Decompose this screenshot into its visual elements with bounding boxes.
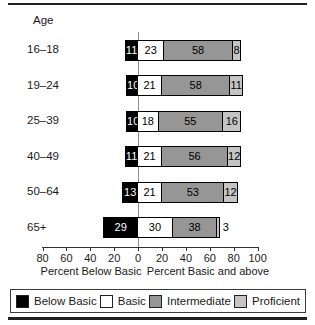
- bar-segment-below-basic: 11: [125, 146, 138, 167]
- bar-segment-proficient: 16: [222, 111, 241, 132]
- bar-segment-proficient: 8: [232, 40, 242, 61]
- axis-tick: [210, 247, 211, 251]
- legend-swatch-intermediate: [149, 295, 162, 308]
- bar-segment-basic: 18: [137, 111, 159, 132]
- category-label-50-64: 50–64: [27, 185, 69, 197]
- bar-segment-proficient: 12: [223, 182, 237, 203]
- axis-tick-label: 100: [243, 252, 273, 264]
- bar-segment-intermediate: 53: [161, 182, 224, 203]
- bar-segment-intermediate: 56: [161, 146, 228, 167]
- legend-item-below-basic: Below Basic: [16, 295, 97, 308]
- bar-segment-proficient: 12: [227, 146, 241, 167]
- bar-segment-value-outside: 3: [223, 217, 229, 238]
- zero-axis-line: [138, 32, 139, 247]
- category-label-40-49: 40–49: [27, 150, 69, 162]
- legend-item-intermediate: Intermediate: [149, 295, 231, 308]
- axis-title-left: Percent Below Basic: [36, 265, 146, 277]
- axis-tick: [114, 247, 115, 251]
- axis-tick: [258, 247, 259, 251]
- bar-segment-below-basic: 13: [122, 182, 138, 203]
- legend-swatch-basic: [100, 295, 113, 308]
- legend-label-intermediate: Intermediate: [167, 295, 231, 307]
- legend-swatch-below-basic: [16, 295, 29, 308]
- bar-segment-basic: 21: [137, 75, 162, 96]
- category-label-19-24: 19–24: [27, 79, 69, 91]
- category-label-16-18: 16–18: [27, 43, 69, 55]
- top-rule: [8, 3, 307, 5]
- bar-segment-basic: 23: [137, 40, 164, 61]
- bar-segment-intermediate: 58: [161, 75, 230, 96]
- legend-label-below-basic: Below Basic: [34, 295, 97, 307]
- bar-segment-basic: 21: [137, 146, 162, 167]
- x-axis-line: [42, 247, 258, 248]
- legend-swatch-proficient: [234, 295, 247, 308]
- bar-segment-intermediate: 38: [172, 217, 217, 238]
- axis-tick: [66, 247, 67, 251]
- bottom-rule: [8, 317, 307, 320]
- axis-tick: [138, 247, 139, 251]
- axis-tick: [43, 247, 44, 251]
- axis-tick: [90, 247, 91, 251]
- age-column-header: Age: [33, 14, 53, 26]
- axis-tick: [186, 247, 187, 251]
- legend-item-basic: Basic: [100, 295, 146, 308]
- bar-segment-below-basic: 11: [125, 40, 138, 61]
- axis-title-right: Percent Basic and above: [143, 265, 273, 277]
- bar-segment-below-basic: 29: [103, 217, 138, 238]
- literacy-by-age-chart: Age 16–18112358819–241021581125–39101855…: [0, 0, 315, 325]
- legend-item-proficient: Proficient: [234, 295, 300, 308]
- category-label-65-: 65+: [27, 221, 69, 233]
- bar-segment-basic: 30: [137, 217, 173, 238]
- bar-segment-basic: 21: [137, 182, 162, 203]
- category-label-25-39: 25–39: [27, 114, 69, 126]
- axis-tick: [162, 247, 163, 251]
- legend: Below BasicBasicIntermediateProficient: [10, 289, 306, 313]
- bar-segment-proficient: 11: [229, 75, 242, 96]
- axis-tick: [234, 247, 235, 251]
- bar-segment-proficient: [216, 217, 220, 238]
- bar-segment-intermediate: 58: [163, 40, 232, 61]
- legend-label-proficient: Proficient: [252, 295, 300, 307]
- legend-label-basic: Basic: [118, 295, 146, 307]
- bar-segment-intermediate: 55: [158, 111, 224, 132]
